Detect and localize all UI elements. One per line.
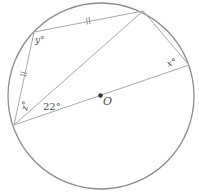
angle-label-x: x° — [166, 56, 178, 68]
angle-label-z: z° — [19, 100, 31, 112]
angle-label-y: y° — [34, 35, 45, 45]
angle-label-22: 22° — [43, 101, 61, 112]
chord-ac — [14, 11, 143, 125]
tick-mark-ab — [20, 72, 28, 76]
geometry-figure: O y° x° z° 22° — [0, 0, 199, 194]
chord-cd — [143, 11, 189, 65]
center-label: O — [103, 95, 112, 108]
chord-bc — [34, 11, 143, 32]
diagram-canvas: O y° x° z° 22° — [0, 0, 199, 194]
tick-mark-bc — [87, 17, 91, 25]
